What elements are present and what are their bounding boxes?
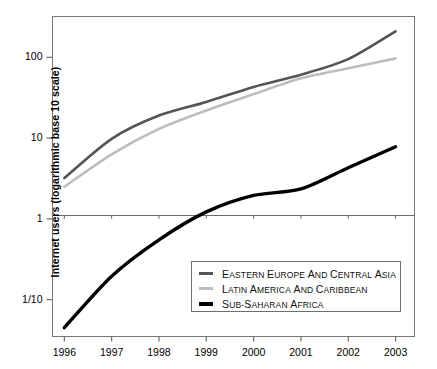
x-tick-label: 1999 [181,346,231,358]
x-tick-label: 2000 [229,346,279,358]
legend-item-label: SUB-SAHARAN AFRICA [222,298,324,310]
legend-swatch-icon [199,287,213,290]
chart-legend[interactable]: EASTERN EUROPE AND CENTRAL ASIALATIN AME… [191,261,401,312]
legend-item-2[interactable]: SUB-SAHARAN AFRICA [192,296,400,311]
x-tick-label: 2001 [276,346,326,358]
legend-item-label: EASTERN EUROPE AND CENTRAL ASIA [222,268,396,280]
x-tick-label: 2003 [371,346,421,358]
y-tick-label: 10 [31,131,43,143]
x-tick-label: 1996 [39,346,89,358]
y-tick-label: 1/10 [22,293,42,305]
legend-swatch-icon [199,302,213,306]
legend-swatch-icon [199,272,213,275]
x-tick-label: 1998 [134,346,184,358]
chart-plot-area [0,0,437,369]
y-tick-label: 100 [25,50,43,62]
legend-item-1[interactable]: LATIN AMERICA AND CARIBBEAN [192,281,400,296]
x-tick-label: 1997 [87,346,137,358]
y-axis-title: Internet users (logarithmic base 10 scal… [49,22,61,322]
series-line-0 [64,31,395,178]
legend-item-label: LATIN AMERICA AND CARIBBEAN [222,283,368,295]
figure-container: Internet users (logarithmic base 10 scal… [0,0,437,369]
x-tick-label: 2002 [323,346,373,358]
legend-item-0[interactable]: EASTERN EUROPE AND CENTRAL ASIA [192,266,400,281]
y-tick-label: 1 [37,212,43,224]
